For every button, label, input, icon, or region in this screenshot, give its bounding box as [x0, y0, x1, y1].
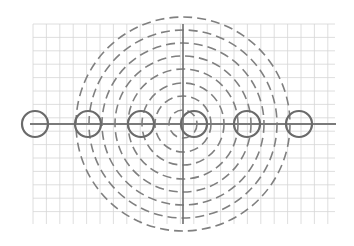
diagram-canvas — [0, 0, 354, 246]
wave-interference-diagram — [0, 0, 354, 246]
